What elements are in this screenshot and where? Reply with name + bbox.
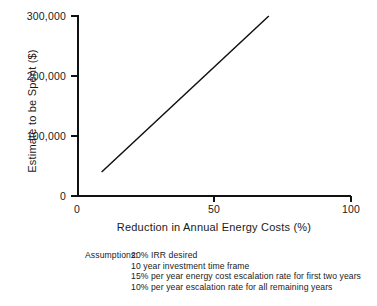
assumption-item: 15% per year energy cost escalation rate…: [85, 271, 361, 282]
y-tick-mark: [71, 195, 77, 197]
y-axis-spine: [77, 15, 79, 197]
y-tick-mark: [71, 135, 77, 137]
assumption-item: 10 year investment time frame: [85, 261, 361, 272]
y-tick-mark: [71, 15, 77, 17]
y-axis-title: Estimate to be Spent ($): [26, 16, 38, 206]
x-tick-mark: [213, 196, 215, 202]
assumptions-note: Assumptions:20% IRR desired10 year inves…: [85, 250, 361, 292]
x-tick-mark: [350, 196, 352, 202]
assumptions-label: Assumptions:: [85, 250, 131, 261]
assumption-item: 10% per year escalation rate for all rem…: [85, 282, 361, 293]
x-tick-label: 100: [321, 204, 377, 215]
y-tick-mark: [71, 75, 77, 77]
chart-figure: 0100,000200,000300,000 050100 Estimate t…: [0, 0, 377, 306]
x-axis-title: Reduction in Annual Energy Costs (%): [77, 221, 351, 233]
assumption-text: 10 year investment time frame: [131, 261, 249, 272]
assumption-text: 10% per year escalation rate for all rem…: [131, 282, 333, 293]
assumption-text: 20% IRR desired: [131, 250, 197, 261]
series-line-estimate-to-be-spent: [102, 16, 269, 172]
x-tick-label: 0: [47, 204, 107, 215]
x-tick-label: 50: [184, 204, 244, 215]
assumption-item: Assumptions:20% IRR desired: [85, 250, 361, 261]
assumption-text: 15% per year energy cost escalation rate…: [131, 271, 361, 282]
y-tick-label: 0: [60, 191, 66, 202]
